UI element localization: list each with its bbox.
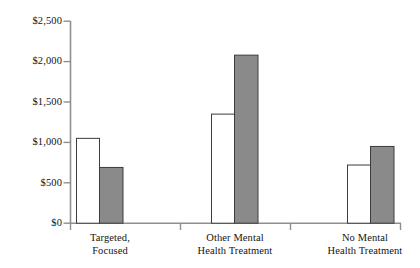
x-category-label-2-line1: No Mental [342, 232, 388, 243]
bar-series2-cat1 [235, 55, 259, 223]
bar-series1-cat2 [348, 165, 371, 223]
x-category-label-2-line2: Health Treatment [305, 245, 420, 258]
bar-series2-cat0 [100, 167, 124, 223]
x-category-label-0: Targeted, Focused [60, 232, 160, 257]
x-category-label-1-line1: Other Mental [206, 232, 263, 243]
x-category-label-1: Other Mental Health Treatment [175, 232, 295, 257]
bar-series1-cat1 [212, 114, 235, 223]
x-category-label-0-line1: Targeted, [90, 232, 130, 243]
plot-area [0, 0, 420, 268]
bar-series1-cat0 [77, 138, 100, 223]
x-category-label-1-line2: Health Treatment [175, 245, 295, 258]
bar-series2-cat2 [371, 146, 395, 223]
x-category-label-0-line2: Focused [60, 245, 160, 258]
bar-chart: $2,500 $2,000 $1,500 $1,000 $500 $0 Ta [0, 0, 420, 268]
x-category-label-2: No Mental Health Treatment [305, 232, 420, 257]
